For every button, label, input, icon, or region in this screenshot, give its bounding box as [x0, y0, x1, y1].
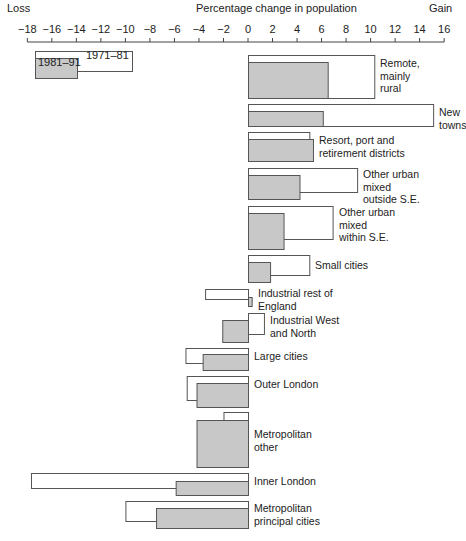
bar-1981-91: [223, 321, 249, 343]
category-label: Outer London: [254, 378, 318, 391]
x-tick-label: −4: [193, 23, 206, 35]
bar-1981-91: [157, 509, 249, 529]
category-label: Industrial rest ofEngland: [258, 287, 333, 312]
category-label-line: other: [254, 441, 312, 454]
x-tick-label: 14: [414, 23, 426, 35]
category-label-line: Industrial West: [270, 314, 339, 327]
x-tick-label: 8: [343, 23, 349, 35]
category-label-line: Other urban: [339, 206, 395, 219]
bar-1981-91: [176, 482, 248, 496]
category-label: Resort, port andretirement districts: [319, 134, 405, 159]
category-label: Inner London: [254, 475, 316, 488]
category-label: Industrial Westand North: [270, 314, 339, 339]
bar-1981-91: [249, 298, 253, 307]
bar-1981-91: [249, 176, 300, 200]
x-tick-label: 0: [245, 23, 251, 35]
category-label-line: Outer London: [254, 378, 318, 391]
category-label-line: outside S.E.: [363, 193, 420, 206]
bar-1981-91: [197, 384, 248, 408]
category-label-line: Remote,: [380, 57, 420, 70]
category-label-line: principal cities: [254, 515, 320, 528]
x-tick-label: −18: [18, 23, 37, 35]
category-label: Other urbanmixedwithin S.E.: [339, 206, 395, 244]
x-tick-label: 12: [389, 23, 401, 35]
x-tick-label: −6: [168, 23, 181, 35]
x-tick-label: −2: [217, 23, 230, 35]
category-label-line: and North: [270, 327, 339, 340]
x-tick-label: 2: [269, 23, 275, 35]
x-tick-label: 4: [294, 23, 300, 35]
category-label-line: mainly: [380, 70, 420, 83]
category-label-line: England: [258, 300, 333, 313]
category-label: Remote,mainlyrural: [380, 57, 420, 95]
category-label-line: Other urban: [363, 168, 420, 181]
category-label: Other urbanmixedoutside S.E.: [363, 168, 420, 206]
category-label: Large cities: [254, 350, 308, 363]
category-label: Small cities: [315, 259, 368, 272]
legend-1971-label: 1971–81: [86, 49, 129, 62]
category-label-line: Resort, port and: [319, 134, 405, 147]
bar-1981-91: [249, 263, 271, 283]
category-label-line: Metropolitan: [254, 502, 320, 515]
category-label-line: mixed: [363, 181, 420, 194]
category-label-line: retirement districts: [319, 147, 405, 160]
bar-1981-91: [249, 214, 285, 250]
category-label-line: within S.E.: [339, 231, 395, 244]
bar-1981-91: [197, 421, 248, 468]
bar-1971-81: [249, 314, 265, 335]
bar-1981-91: [249, 112, 324, 127]
category-label: New towns: [439, 106, 466, 131]
x-tick-label: 6: [318, 23, 324, 35]
category-label: Metropolitanprincipal cities: [254, 502, 320, 527]
category-label-line: Industrial rest of: [258, 287, 333, 300]
x-tick-label: 10: [364, 23, 376, 35]
category-label-line: rural: [380, 82, 420, 95]
category-label-line: Small cities: [315, 259, 368, 272]
bar-1981-91: [249, 140, 314, 162]
bar-1981-91: [249, 63, 329, 99]
category-label-line: Inner London: [254, 475, 316, 488]
x-tick-label: −8: [144, 23, 157, 35]
category-label-line: Metropolitan: [254, 428, 312, 441]
x-tick-label: −12: [92, 23, 111, 35]
x-tick-label: −10: [116, 23, 135, 35]
legend-1981-label: 1981–91: [38, 56, 81, 69]
bar-1981-91: [203, 355, 248, 371]
category-label-line: New towns: [439, 106, 466, 131]
bar-1971-81: [206, 290, 249, 300]
x-tick-label: −16: [43, 23, 62, 35]
category-label-line: Large cities: [254, 350, 308, 363]
x-tick-label: −14: [67, 23, 86, 35]
category-label-line: mixed: [339, 219, 395, 232]
x-tick-label: 16: [438, 23, 450, 35]
category-label: Metropolitanother: [254, 428, 312, 453]
